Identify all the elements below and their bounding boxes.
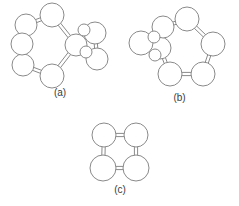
atom-circle-b-b3 bbox=[191, 62, 215, 86]
molecular-structures-figure: (a) (b) (c) bbox=[0, 0, 239, 206]
atom-circle-c-c2 bbox=[124, 123, 148, 147]
atom-circle-c-c4 bbox=[90, 155, 116, 181]
panel-label-c: (c) bbox=[60, 184, 180, 195]
atom-circle-b-b4 bbox=[158, 62, 182, 86]
structures-canvas bbox=[0, 0, 239, 206]
atom-circle-a-a6 bbox=[11, 33, 33, 55]
panel-label-a: (a) bbox=[0, 87, 120, 98]
atom-circle-a-a10 bbox=[80, 46, 92, 58]
atom-circle-a-a4 bbox=[40, 64, 64, 88]
atom-circle-b-b2 bbox=[201, 32, 225, 56]
atom-circle-a-a1 bbox=[15, 14, 37, 36]
atom-circle-b-b9 bbox=[149, 49, 161, 61]
atom-circle-c-c3 bbox=[123, 155, 149, 181]
atom-circle-a-a5 bbox=[12, 54, 34, 76]
atom-circle-a-a2 bbox=[40, 3, 64, 27]
atom-circle-c-c1 bbox=[92, 123, 116, 147]
panel-label-b: (b) bbox=[120, 92, 239, 103]
atom-circle-b-b1 bbox=[175, 7, 199, 31]
atom-circle-b-b8 bbox=[148, 31, 160, 43]
atom-circle-a-a9 bbox=[78, 24, 90, 36]
